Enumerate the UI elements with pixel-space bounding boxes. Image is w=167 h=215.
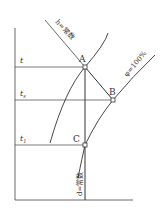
point-c-label: C [73,134,80,144]
d-constant-label: d=常数 [75,172,84,196]
point-b-label: B [109,87,116,97]
point-c-marker [83,143,87,147]
label-ts: ts [20,89,26,99]
point-b-marker [111,98,115,102]
point-a-label: A [78,54,86,64]
saturation-curve [78,55,155,178]
phi-100-label: φ=100% [122,49,148,78]
label-t: t [20,56,24,65]
label-t1: t1 [20,134,26,144]
psychrometric-diagram: A B C t ts t1 h=常数 φ=100% d=常数 [0,0,167,215]
h-constant-label: h=常数 [54,17,77,41]
point-a-marker [83,65,87,69]
humidity-curve-a [50,33,108,143]
